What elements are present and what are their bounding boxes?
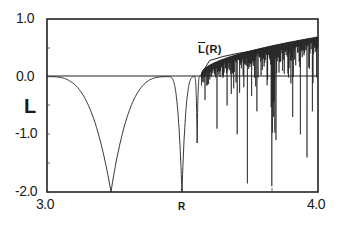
- y-tick-0: 0.0: [16, 68, 34, 84]
- x-tick-right: 4.0: [307, 196, 325, 212]
- envelope-annotation: L(R): [198, 43, 222, 55]
- y-tick-neg1: -1.0: [15, 125, 37, 141]
- y-tick-1: 1.0: [16, 10, 34, 26]
- lyapunov-curve: [47, 37, 318, 192]
- x-axis-label: R: [178, 201, 185, 212]
- y-axis-label: L: [24, 95, 36, 118]
- y-tick-neg2: -2.0: [15, 183, 37, 199]
- annotation-suffix: (R): [205, 43, 222, 55]
- x-tick-left: 3.0: [36, 196, 54, 212]
